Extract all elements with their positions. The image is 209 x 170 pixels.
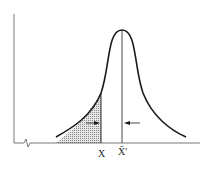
x-label: X bbox=[98, 148, 105, 159]
x-axis bbox=[14, 139, 200, 147]
bell-curve bbox=[56, 30, 186, 137]
distribution-diagram: X X̄' bbox=[0, 0, 209, 170]
diagram-canvas bbox=[0, 0, 209, 170]
arrow-left-icon bbox=[124, 121, 140, 125]
shaded-tail-area bbox=[56, 93, 101, 143]
mean-label: X̄' bbox=[118, 146, 127, 157]
